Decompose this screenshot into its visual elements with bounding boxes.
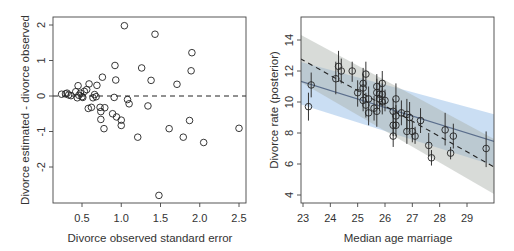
data-point (86, 81, 93, 88)
data-point (180, 134, 187, 141)
regression-plot: 23242526272829 468101214 Median age marr… (268, 17, 494, 244)
y-tick-label: 0 (35, 93, 47, 99)
y-tick-label: 10 (283, 96, 295, 108)
residual-points (53, 22, 246, 198)
x-tick-label: 23 (297, 212, 309, 224)
y-tick-label: 8 (283, 130, 295, 136)
x-tick-label: 24 (324, 212, 336, 224)
x-tick-label: 2.0 (192, 212, 207, 224)
residual-plot: 0.51.01.52.02.5 -2-1012 Divorce observed… (19, 15, 247, 244)
data-point (134, 134, 141, 141)
data-point (200, 139, 207, 146)
y-tick-label: 12 (283, 65, 295, 77)
x-tick-label: 25 (352, 212, 364, 224)
x-tick-label: 29 (461, 212, 473, 224)
data-point (138, 65, 145, 72)
data-point (75, 82, 82, 89)
data-point (94, 82, 101, 89)
data-point (189, 49, 196, 56)
y-tick-label: 14 (283, 34, 295, 46)
data-point (112, 62, 119, 69)
data-point (101, 125, 108, 132)
left-y-axis-label: Divorce estimated - divorce observed (19, 15, 31, 205)
data-point (188, 67, 195, 74)
data-point (98, 108, 105, 115)
figure: 0.51.01.52.02.5 -2-1012 Divorce observed… (0, 0, 514, 251)
right-y-axis-label: Divorce rate (posterior) (268, 51, 280, 169)
left-y-axis: -2-1012 (35, 22, 53, 172)
y-tick-label: -2 (35, 162, 47, 172)
right-x-axis: 23242526272829 (297, 203, 473, 224)
data-point (124, 96, 131, 103)
data-point (145, 103, 152, 110)
x-tick-label: 27 (406, 212, 418, 224)
x-tick-label: 1.0 (114, 212, 129, 224)
data-point (111, 94, 118, 101)
x-tick-label: 0.5 (74, 212, 89, 224)
data-point (98, 116, 105, 123)
x-tick-label: 28 (434, 212, 446, 224)
left-x-axis-label: Divorce observed standard error (68, 232, 233, 244)
credible-bands (300, 35, 494, 195)
right-y-axis: 468101214 (283, 34, 301, 198)
right-x-axis-label: Median age marriage (344, 232, 453, 244)
data-point (152, 31, 159, 38)
data-point (121, 22, 128, 29)
data-point (174, 81, 181, 88)
data-point (101, 104, 108, 111)
y-tick-label: 1 (35, 57, 47, 63)
y-tick-label: 2 (35, 22, 47, 28)
y-tick-label: 6 (283, 161, 295, 167)
y-tick-label: -1 (35, 127, 47, 137)
data-point (236, 125, 243, 132)
data-point (166, 125, 173, 132)
x-tick-label: 26 (379, 212, 391, 224)
data-point (126, 101, 133, 108)
data-point (99, 74, 106, 81)
x-tick-label: 2.5 (231, 212, 246, 224)
x-tick-label: 1.5 (153, 212, 168, 224)
left-plot-frame (53, 17, 246, 203)
left-x-axis: 0.51.01.52.02.5 (74, 203, 246, 224)
data-point (156, 192, 163, 199)
data-point (186, 117, 193, 124)
data-point (148, 77, 155, 84)
y-tick-label: 4 (283, 192, 295, 198)
data-point (112, 77, 119, 84)
